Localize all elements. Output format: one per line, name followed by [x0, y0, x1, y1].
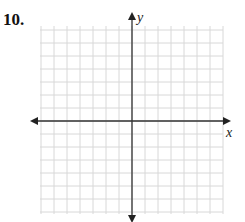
- axes: [32, 14, 229, 221]
- y-axis-label: y: [135, 10, 144, 25]
- x-axis-label: x: [225, 125, 233, 140]
- coordinate-plane: x y: [0, 0, 245, 222]
